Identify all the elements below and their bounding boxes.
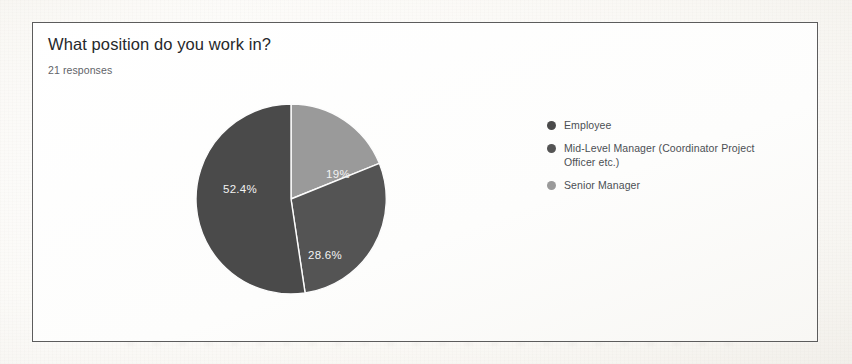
legend-item-employee[interactable]: Employee — [547, 118, 797, 132]
pie-label-senior-manager: 19% — [326, 168, 350, 180]
legend-label-employee: Employee — [564, 118, 612, 132]
pie-slices — [196, 104, 386, 294]
pie-label-employee: 52.4% — [223, 183, 257, 195]
legend-item-mid-level-manager[interactable]: Mid-Level Manager (Coordinator Project O… — [547, 141, 797, 169]
legend-label-mid-level-manager: Mid-Level Manager (Coordinator Project O… — [564, 141, 760, 169]
legend-item-senior-manager[interactable]: Senior Manager — [547, 178, 797, 192]
scanned-page: What position do you work in? 21 respons… — [0, 0, 852, 364]
legend-dot-mid-level-manager-icon — [547, 144, 556, 153]
pie-label-mid-level-manager: 28.6% — [308, 249, 342, 261]
pie-chart: 19% 28.6% 52.4% — [191, 99, 391, 299]
survey-results-card: What position do you work in? 21 respons… — [32, 22, 818, 342]
legend-dot-senior-manager-icon — [547, 181, 556, 190]
legend-dot-employee-icon — [547, 121, 556, 130]
legend-label-senior-manager: Senior Manager — [564, 178, 640, 192]
chart-legend: Employee Mid-Level Manager (Coordinator … — [547, 118, 797, 201]
pie-slice-employee[interactable] — [196, 104, 305, 294]
